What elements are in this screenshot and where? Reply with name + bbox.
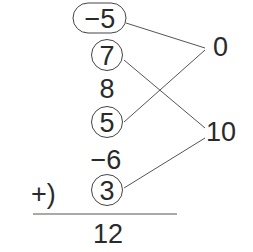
- connector-5-to-0: [124, 50, 205, 122]
- addition-diagram: −5 7 8 5 −6 3 +) 12 0 10: [0, 0, 253, 252]
- term-neg5: −5: [85, 4, 116, 34]
- term-5: 5: [99, 108, 114, 138]
- plus-operator: +): [31, 179, 56, 209]
- result-12: 12: [93, 219, 123, 249]
- connector-neg5-to-0: [126, 23, 205, 48]
- term-7: 7: [99, 41, 114, 71]
- group-sum-10: 10: [206, 117, 236, 147]
- connector-7-to-10: [124, 60, 205, 128]
- term-neg6: −6: [91, 145, 122, 175]
- connector-3-to-10: [124, 138, 205, 188]
- term-8: 8: [99, 74, 114, 104]
- term-3: 3: [99, 176, 114, 206]
- group-sum-0: 0: [213, 32, 228, 62]
